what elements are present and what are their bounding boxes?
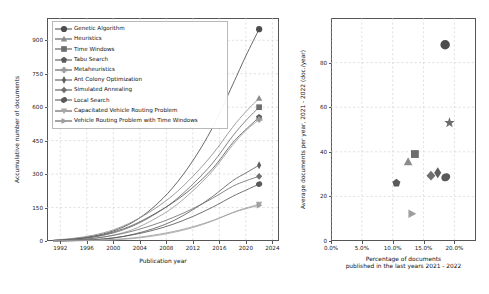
y-tick-label: 20	[307, 193, 327, 199]
x-tick-label: 2012	[186, 245, 200, 251]
y-tick-label: 60	[307, 104, 327, 110]
x-tick-label: 10.0%	[384, 245, 402, 251]
legend-item-simulated-annealing[interactable]: Simulated Annealing	[55, 85, 224, 95]
x-tick-label: 2020	[239, 245, 253, 251]
x-tick-mark	[362, 241, 363, 244]
right-plot-canvas	[331, 18, 476, 241]
y-tick-mark	[45, 74, 48, 75]
legend-marker-circle-icon	[55, 24, 72, 34]
series-endpoint-marker	[256, 95, 262, 101]
x-tick-label: 2008	[159, 245, 173, 251]
x-tick-label: 15.0%	[415, 245, 433, 251]
legend-item-label: Tabu Search	[74, 57, 108, 63]
y-tick-label: 0	[307, 238, 327, 244]
legend-item-time-windows[interactable]: Time Windows	[55, 44, 224, 54]
scatter-point-marker	[392, 179, 400, 187]
legend-item-label: Simulated Annealing	[74, 87, 132, 93]
y-tick-mark	[45, 174, 48, 175]
right-chart-panel: 0204060800.0%5.0%10.0%15.0%20.0% Percent…	[292, 0, 489, 294]
scatter-point-marker	[404, 157, 413, 165]
legend-item-label: Time Windows	[74, 47, 114, 53]
y-tick-label: 150	[19, 205, 43, 211]
y-tick-mark	[329, 63, 332, 64]
series-line	[54, 119, 259, 240]
legend-item-label: Ant Colony Optimization	[74, 77, 142, 83]
y-tick-label: 750	[19, 71, 43, 77]
legend-item-genetic-algorithm[interactable]: Genetic Algorithm	[55, 24, 224, 34]
x-tick-mark	[140, 241, 141, 244]
legend-item-label: Metaheuristics	[74, 67, 115, 73]
y-tick-mark	[45, 141, 48, 142]
series-endpoint-marker	[256, 104, 262, 110]
y-tick-mark	[45, 208, 48, 209]
legend-item-tabu-search[interactable]: Tabu Search	[55, 55, 224, 65]
x-tick-label: 20.0%	[446, 245, 464, 251]
legend-item-metaheuristics[interactable]: Metaheuristics	[55, 65, 224, 75]
x-tick-mark	[166, 241, 167, 244]
scatter-point-marker	[408, 210, 416, 219]
legend-marker-plus-thin-icon	[55, 65, 72, 75]
left-chart-panel: 0150300450600750900199219962000200420082…	[0, 0, 292, 294]
y-tick-label: 0	[19, 238, 43, 244]
legend-item-ant-colony-optimization[interactable]: Ant Colony Optimization	[55, 75, 224, 85]
y-tick-label: 40	[307, 149, 327, 155]
right-y-axis-title: Average documents per year, 2021 - 2022 …	[300, 18, 306, 241]
legend-item-local-search[interactable]: Local Search	[55, 95, 224, 105]
series-line	[54, 204, 259, 241]
right-x-axis-title-line1: Percentage of documents	[366, 256, 441, 262]
legend-marker-triangle-right-icon	[55, 116, 72, 126]
left-x-axis-title: Publication year	[47, 258, 279, 264]
x-tick-label: 2000	[106, 245, 120, 251]
x-tick-mark	[454, 241, 455, 244]
y-tick-mark	[329, 196, 332, 197]
x-tick-label: 0.0%	[324, 245, 338, 251]
y-tick-mark	[329, 152, 332, 153]
figure-root: 0150300450600750900199219962000200420082…	[0, 0, 489, 294]
legend-marker-diamond-thin-icon	[55, 75, 72, 85]
legend-marker-diamond-icon	[55, 85, 72, 95]
series-line	[54, 176, 259, 240]
right-x-axis-title: Percentage of documents published in the…	[331, 256, 476, 271]
legend-marker-pentagon-icon	[55, 55, 72, 65]
legend-item-label: Vehicle Routing Problem with Time Window…	[74, 118, 198, 124]
right-x-axis-title-line2: published in the last years 2021 - 2022	[346, 263, 462, 269]
y-tick-label: 300	[19, 171, 43, 177]
y-tick-label: 900	[19, 37, 43, 43]
legend-item-capacitated-vehicle-routing-problem[interactable]: Capacitated Vehicle Routing Problem	[55, 106, 224, 116]
legend-marker-square-icon	[55, 44, 72, 54]
y-tick-mark	[45, 241, 48, 242]
x-tick-label: 1996	[80, 245, 94, 251]
x-tick-label: 2016	[212, 245, 226, 251]
y-tick-mark	[45, 40, 48, 41]
series-endpoint-marker	[256, 26, 262, 32]
x-tick-label: 2004	[133, 245, 147, 251]
x-tick-label: 2024	[265, 245, 279, 251]
x-tick-mark	[331, 241, 332, 244]
x-tick-mark	[113, 241, 114, 244]
series-endpoint-marker	[256, 173, 262, 180]
scatter-point-marker	[444, 117, 454, 127]
x-tick-mark	[393, 241, 394, 244]
y-tick-label: 80	[307, 60, 327, 66]
legend-item-label: Heuristics	[74, 36, 102, 42]
x-tick-label: 5.0%	[355, 245, 369, 251]
y-tick-label: 450	[19, 138, 43, 144]
x-tick-label: 1992	[53, 245, 67, 251]
x-tick-mark	[424, 241, 425, 244]
series-endpoint-marker	[255, 180, 263, 188]
series-line	[54, 117, 259, 240]
scatter-point-marker	[440, 172, 452, 183]
y-tick-mark	[45, 107, 48, 108]
y-tick-label: 600	[19, 104, 43, 110]
legend-item-vehicle-routing-problem-with-time-windows[interactable]: Vehicle Routing Problem with Time Window…	[55, 116, 224, 126]
x-tick-mark	[60, 241, 61, 244]
legend-marker-triangle-down-icon	[55, 106, 72, 116]
scatter-point-marker	[434, 167, 441, 178]
x-tick-mark	[87, 241, 88, 244]
legend-marker-triangle-up-icon	[55, 34, 72, 44]
legend-item-heuristics[interactable]: Heuristics	[55, 34, 224, 44]
scatter-point-marker	[426, 171, 435, 181]
legend-item-label: Local Search	[74, 98, 110, 104]
x-tick-mark	[246, 241, 247, 244]
left-y-axis-title: Accumulative number of documents	[14, 18, 20, 241]
